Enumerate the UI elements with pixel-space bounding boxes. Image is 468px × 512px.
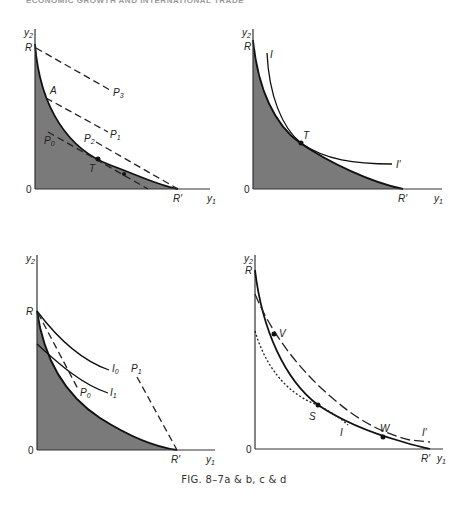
label-r: R: [245, 265, 252, 276]
point-s: [316, 403, 321, 408]
label-p3: P3: [113, 87, 124, 99]
y2-label: y2: [23, 27, 33, 39]
production-possibility-region: [37, 311, 177, 450]
y1-label: y1: [436, 453, 446, 465]
y1-label: y1: [206, 193, 216, 205]
price-line-p1: [137, 377, 177, 450]
point-w: [381, 435, 386, 440]
label-i-prime: I′: [422, 427, 428, 438]
point-t: [299, 141, 304, 146]
label-a: A: [49, 85, 57, 96]
label-w: W: [380, 423, 391, 434]
panel-b: y2 R I T I′ 0 R′ y1: [241, 27, 443, 205]
y2-label: y2: [25, 253, 35, 265]
label-p1: P1: [131, 363, 142, 375]
label-r: R: [25, 42, 32, 53]
label-i1: I1: [110, 387, 117, 399]
label-i0: I0: [112, 363, 119, 375]
label-r-prime: R′: [173, 193, 183, 204]
label-r: R: [244, 41, 251, 52]
label-t: T: [89, 163, 96, 174]
origin-label: 0: [28, 445, 34, 456]
label-i-prime: I′: [396, 159, 402, 170]
panel-a: y2 R A P3 P1 P2 P0 T 0 R′ y1: [23, 27, 216, 205]
origin-label: 0: [26, 184, 32, 195]
point-tangent: [122, 172, 126, 176]
point-v: [272, 332, 277, 337]
figure-caption: FIG. 8–7a & b, c & d: [0, 474, 468, 485]
indifference-curve-i: [255, 331, 348, 425]
y2-label: y2: [241, 27, 251, 39]
transformation-curve: [255, 270, 430, 449]
label-r-prime: R′: [171, 454, 181, 465]
production-possibility-region: [35, 44, 178, 189]
label-r: R: [26, 306, 33, 317]
label-s: S: [309, 411, 316, 422]
label-r-prime: R′: [421, 453, 431, 464]
label-v: V: [279, 328, 287, 339]
price-line-p3: [36, 48, 110, 90]
label-p1: P1: [110, 129, 121, 141]
origin-label: 0: [246, 444, 252, 455]
label-p2: P2: [84, 133, 95, 145]
y1-label: y1: [205, 454, 215, 466]
panel-d: y2 R V S I W I′ 0 R′ y1: [243, 253, 446, 465]
y2-label: y2: [243, 253, 253, 265]
panel-c: y2 R I0 I1 P0 P1 0 R′ y1: [25, 253, 215, 466]
origin-label: 0: [244, 184, 250, 195]
y1-label: y1: [433, 193, 443, 205]
label-r-prime: R′: [398, 193, 408, 204]
figure-8-7: y2 R A P3 P1 P2 P0 T 0 R′ y1 y2 R I T I′…: [0, 0, 468, 512]
point-t: [96, 157, 101, 162]
label-i: I: [270, 49, 273, 60]
label-t: T: [303, 130, 310, 141]
label-p0: P0: [80, 387, 91, 399]
label-i: I: [340, 427, 343, 438]
